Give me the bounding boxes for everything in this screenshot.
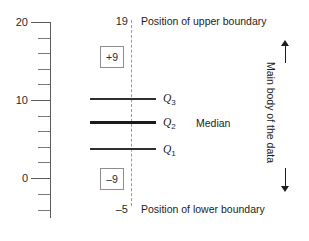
q3-rule: [90, 98, 156, 100]
y-axis-label-20: 20: [2, 17, 28, 28]
y-axis-minor-tick-12: [38, 84, 50, 85]
y-axis-line: [50, 22, 51, 218]
y-axis-minor-tick-6: [38, 131, 50, 132]
y-axis-minor-tick-neg2: [38, 194, 50, 195]
y-axis-label-0: 0: [2, 173, 28, 184]
y-axis-minor-tick-18: [38, 38, 50, 39]
y-axis-minor-tick-2: [38, 162, 50, 163]
boxplot-boundary-diagram: 20 10 0 19 Position of upper boundary +9…: [0, 0, 309, 241]
lower-boundary-caption: Position of lower boundary: [141, 204, 265, 215]
arrow-down-icon: [281, 186, 289, 192]
q2-median-rule: [90, 121, 156, 124]
y-axis-major-tick-20: [31, 22, 50, 23]
q3-label: Q3: [163, 93, 176, 107]
y-axis-minor-tick-4: [38, 147, 50, 148]
q1-rule: [90, 148, 156, 150]
y-axis-major-tick-0: [31, 178, 50, 179]
main-body-annotation: Main body of the data: [266, 62, 277, 163]
q2-label-sub: 2: [171, 122, 175, 131]
boundary-guide-dashed-line: [131, 20, 132, 206]
median-caption: Median: [196, 118, 230, 129]
q2-label: Q2: [163, 117, 176, 131]
q1-label: Q1: [163, 144, 176, 158]
upper-boundary-value: 19: [98, 16, 128, 27]
y-axis-minor-tick-14: [38, 69, 50, 70]
y-axis-major-tick-10: [31, 100, 50, 101]
y-axis-minor-tick-8: [38, 116, 50, 117]
q1-label-sub: 1: [171, 149, 175, 158]
upper-boundary-caption: Position of upper boundary: [141, 16, 267, 27]
lower-boundary-value: –5: [98, 204, 128, 215]
y-axis-label-10: 10: [2, 95, 28, 106]
y-axis-minor-tick-16: [38, 53, 50, 54]
q3-label-sub: 3: [171, 98, 175, 107]
upper-offset-box: +9: [100, 46, 124, 68]
arrow-up-stem: [285, 45, 286, 63]
y-axis-minor-tick-neg4: [38, 210, 50, 211]
lower-offset-box: –9: [100, 168, 124, 190]
arrow-down-stem: [285, 168, 286, 186]
